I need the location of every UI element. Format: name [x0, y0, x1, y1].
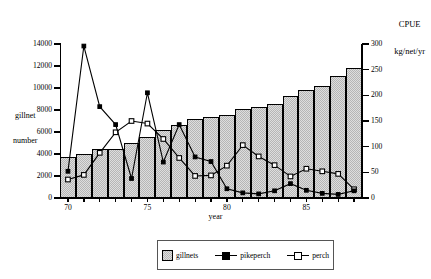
- x-axis-tick-label: 75: [135, 203, 159, 212]
- chart-legend: gillnets pikeperch perch: [157, 240, 334, 270]
- legend-item-perch: perch: [287, 251, 329, 260]
- legend-item-pikeperch: pikeperch: [215, 251, 270, 260]
- y-axis-tick-label: 4000: [37, 149, 52, 158]
- bar-swatch-icon: [162, 250, 173, 261]
- tick-mark: [195, 198, 196, 202]
- y-axis-tick-label: 10000: [33, 83, 52, 92]
- bar: [330, 76, 346, 198]
- tick-mark: [362, 69, 369, 70]
- legend-label-gillnets: gillnets: [176, 251, 198, 260]
- tick-mark: [362, 43, 369, 44]
- y2-axis-tick-label: 250: [371, 65, 382, 74]
- y2-axis-tick-label: 50: [371, 167, 379, 176]
- tick-mark: [353, 198, 354, 202]
- legend-label-pikeperch: pikeperch: [240, 251, 270, 260]
- tick-mark: [83, 198, 84, 202]
- tick-mark: [362, 95, 369, 96]
- bar: [251, 107, 267, 198]
- plot-area: [60, 44, 362, 198]
- tick-mark: [322, 198, 323, 202]
- tick-mark: [131, 198, 132, 202]
- x-axis-tick-label: 80: [215, 203, 239, 212]
- open-square-line-icon: [287, 251, 309, 260]
- y-axis-tick-label: 12000: [33, 61, 52, 70]
- primary-axis-title-line1: gillnet: [13, 112, 37, 120]
- bar: [139, 137, 155, 198]
- y2-axis-tick-label: 200: [371, 90, 382, 99]
- secondary-axis-title-line1: CPUE: [394, 20, 425, 29]
- bar: [108, 149, 124, 199]
- chart-page: CPUE kg/net/yr gillnet number year 02000…: [0, 0, 431, 279]
- x-axis-tick-label: 70: [56, 203, 80, 212]
- bar: [155, 130, 171, 198]
- y-axis-tick-label: 8000: [37, 105, 52, 114]
- y-axis-tick-label: 14000: [33, 39, 52, 48]
- x-axis-tick-label: 85: [294, 203, 318, 212]
- bar: [314, 86, 330, 198]
- bar: [124, 143, 140, 198]
- primary-axis-title-line2: number: [13, 137, 37, 145]
- bar: [203, 117, 219, 198]
- bar: [171, 125, 187, 198]
- bar: [283, 96, 299, 198]
- tick-mark: [362, 197, 369, 198]
- primary-axis-title: gillnet number: [13, 95, 37, 162]
- filled-square-line-icon: [215, 251, 237, 260]
- y-axis-tick-label: 6000: [37, 127, 52, 136]
- tick-mark: [338, 198, 339, 202]
- bar: [60, 157, 76, 198]
- legend-items: gillnets pikeperch perch: [158, 241, 333, 269]
- y2-axis-tick-label: 0: [371, 193, 375, 202]
- tick-mark: [242, 198, 243, 202]
- bar: [267, 104, 283, 198]
- y-axis-tick-label: 0: [48, 193, 52, 202]
- tick-mark: [362, 120, 369, 121]
- tick-mark: [362, 146, 369, 147]
- tick-mark: [362, 172, 369, 173]
- tick-mark: [163, 198, 164, 202]
- y2-axis-tick-label: 150: [371, 116, 382, 125]
- bar: [187, 119, 203, 198]
- secondary-axis-title: CPUE kg/net/yr: [394, 2, 425, 73]
- tick-mark: [179, 198, 180, 202]
- bar: [76, 154, 92, 198]
- bar: [298, 90, 314, 198]
- x-axis-title: year: [0, 213, 431, 221]
- secondary-axis-title-line2: kg/net/yr: [394, 47, 425, 56]
- tick-mark: [226, 198, 227, 202]
- bar: [235, 109, 251, 198]
- tick-mark: [147, 198, 148, 202]
- legend-item-gillnets: gillnets: [162, 250, 198, 261]
- tick-mark: [290, 198, 291, 202]
- tick-mark: [306, 198, 307, 202]
- tick-mark: [99, 198, 100, 202]
- bar: [346, 68, 362, 198]
- tick-mark: [210, 198, 211, 202]
- bar: [92, 149, 108, 198]
- y-axis-tick-label: 2000: [37, 171, 52, 180]
- tick-mark: [274, 198, 275, 202]
- y2-axis-tick-label: 100: [371, 142, 382, 151]
- y2-axis-tick-label: 300: [371, 39, 382, 48]
- tick-mark: [258, 198, 259, 202]
- bar: [219, 115, 235, 198]
- legend-label-perch: perch: [312, 251, 329, 260]
- tick-mark: [67, 198, 68, 202]
- tick-mark: [115, 198, 116, 202]
